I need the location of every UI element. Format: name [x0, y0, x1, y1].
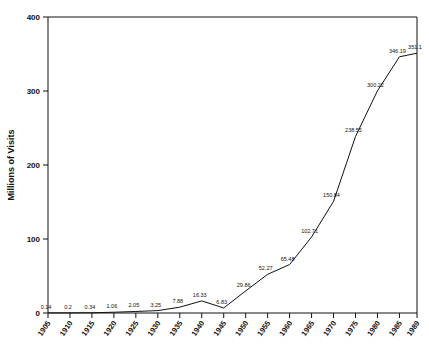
x-tick-label: 1950	[233, 319, 250, 338]
y-tick-label: 100	[27, 235, 41, 244]
x-tick-label: 1930	[146, 319, 163, 338]
x-tick-label: 1955	[255, 319, 272, 338]
data-point-labels: 0.140.20.341.062.053.257.8816.336.8329.8…	[41, 44, 422, 310]
x-tick-label: 1985	[387, 319, 404, 338]
x-tick-label: 1945	[211, 319, 228, 338]
x-tick-label: 1920	[102, 319, 119, 338]
x-tick-label: 1965	[299, 319, 316, 338]
x-axis: 1905191019151920192519301935194019451950…	[36, 313, 422, 338]
data-point-label: 16.33	[193, 292, 207, 298]
x-tick-label: 1989	[405, 319, 422, 338]
chart-container: 0100200300400Millions of Visits190519101…	[0, 0, 429, 351]
data-point-label: 7.88	[172, 298, 183, 304]
y-axis: 0100200300400	[27, 13, 48, 318]
data-point-label: 0.2	[64, 304, 72, 310]
data-point-label: 2.05	[128, 302, 139, 308]
line-chart: 0100200300400Millions of Visits190519101…	[0, 0, 429, 351]
data-point-label: 102.71	[301, 228, 318, 234]
y-tick-label: 300	[27, 87, 41, 96]
data-point-label: 29.86	[237, 282, 251, 288]
data-point-label: 238.55	[345, 127, 362, 133]
data-point-label: 351.1	[408, 44, 422, 50]
data-point-label: 346.19	[389, 48, 406, 54]
y-tick-label: 0	[36, 309, 41, 318]
x-tick-label: 1960	[277, 319, 294, 338]
x-tick-label: 1905	[36, 319, 53, 338]
plot-frame	[48, 17, 417, 313]
data-point-label: 1.06	[107, 303, 118, 309]
x-tick-label: 1970	[321, 319, 338, 338]
y-tick-label: 200	[27, 161, 41, 170]
data-series-line	[48, 53, 417, 313]
x-tick-label: 1935	[167, 319, 184, 338]
data-point-label: 52.27	[259, 265, 273, 271]
data-point-label: 65.48	[281, 256, 295, 262]
y-tick-label: 400	[27, 13, 41, 22]
x-tick-label: 1910	[58, 319, 75, 338]
x-tick-label: 1925	[124, 319, 141, 338]
data-point-label: 300.22	[367, 82, 384, 88]
x-tick-label: 1980	[365, 319, 382, 338]
data-point-label: 0.34	[85, 304, 96, 310]
x-tick-label: 1915	[80, 319, 97, 338]
data-point-label: 150.84	[323, 192, 340, 198]
data-point-label: 0.14	[41, 304, 52, 310]
x-tick-label: 1975	[343, 319, 360, 338]
data-point-label: 6.83	[216, 299, 227, 305]
data-point-label: 3.25	[150, 302, 161, 308]
x-tick-label: 1940	[189, 319, 206, 338]
y-axis-title: Millions of Visits	[6, 130, 16, 201]
